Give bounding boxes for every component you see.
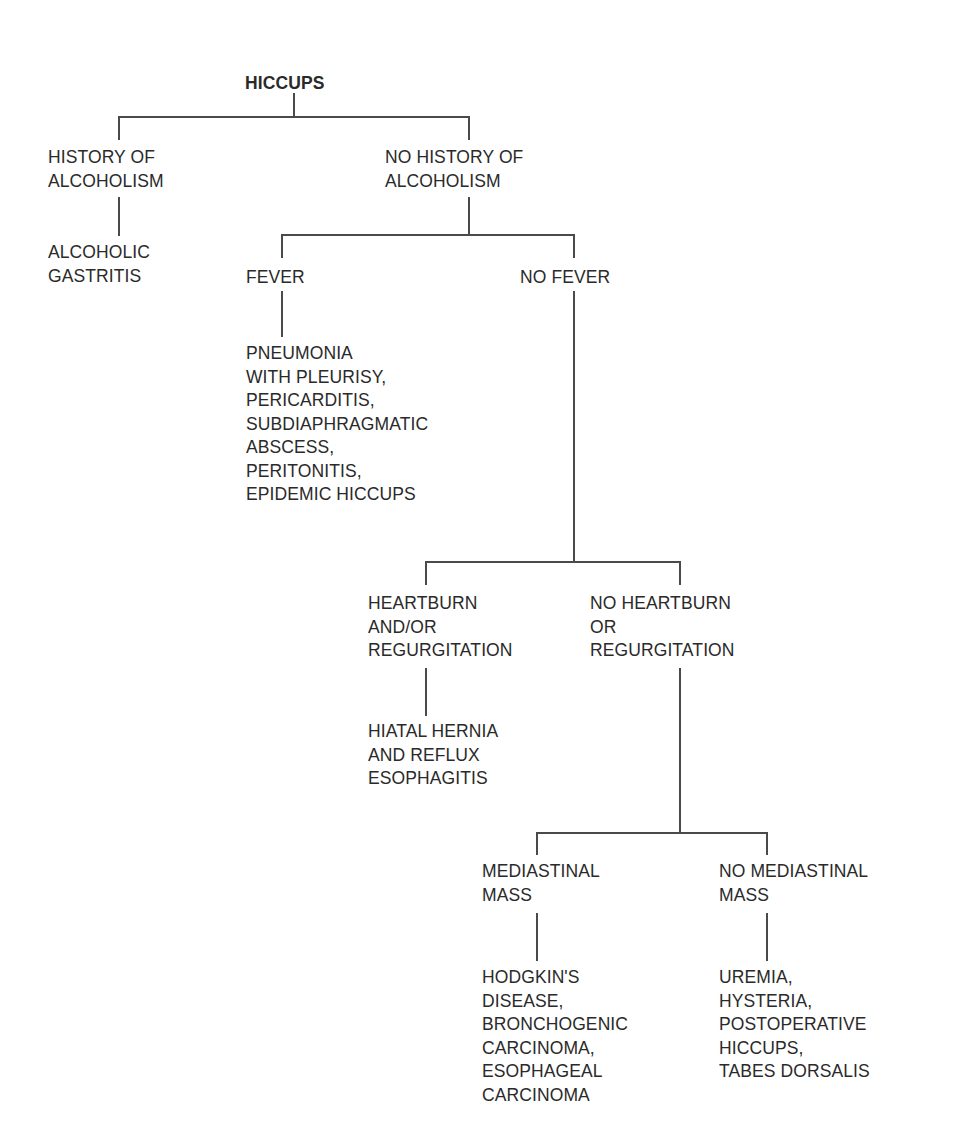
node-line: PNEUMONIA bbox=[246, 342, 428, 366]
node-line: ESOPHAGEAL bbox=[482, 1060, 628, 1084]
connector-heartburn-bar bbox=[425, 561, 680, 563]
node-line: REGURGITATION bbox=[590, 639, 735, 663]
node-mediastinal-mass: MEDIASTINAL MASS bbox=[482, 860, 600, 907]
connector-heartburn-to-hernia bbox=[425, 668, 427, 716]
node-line: TABES DORSALIS bbox=[719, 1060, 870, 1084]
node-no-mediastinal-mass: NO MEDIASTINAL MASS bbox=[719, 860, 868, 907]
connector-fever-bar bbox=[281, 234, 574, 236]
connector-to-fever bbox=[281, 234, 283, 258]
connector-no-history-stem bbox=[468, 197, 470, 234]
node-line: CARCINOMA, bbox=[482, 1037, 628, 1061]
node-line: SUBDIAPHRAGMATIC bbox=[246, 413, 428, 437]
connector-root-bar bbox=[118, 116, 469, 118]
connector-to-no-history bbox=[468, 116, 470, 140]
node-line: REGURGITATION bbox=[368, 639, 513, 663]
node-hiccups: HICCUPS bbox=[245, 72, 324, 96]
node-line: NO FEVER bbox=[520, 266, 610, 290]
node-line: DISEASE, bbox=[482, 990, 628, 1014]
connector-to-no-fever bbox=[573, 234, 575, 258]
node-line: ESOPHAGITIS bbox=[368, 767, 498, 791]
connector-to-history bbox=[118, 116, 120, 140]
node-line: CARCINOMA bbox=[482, 1084, 628, 1108]
node-mediastinal-causes: HODGKIN'S DISEASE, BRONCHOGENIC CARCINOM… bbox=[482, 966, 628, 1107]
node-alcoholic-gastritis: ALCOHOLIC GASTRITIS bbox=[48, 241, 150, 288]
node-line: WITH PLEURISY, bbox=[246, 366, 428, 390]
node-line: HICCUPS bbox=[245, 72, 324, 96]
node-line: ALCOHOLISM bbox=[385, 170, 523, 194]
node-line: PERICARDITIS, bbox=[246, 389, 428, 413]
node-heartburn: HEARTBURN AND/OR REGURGITATION bbox=[368, 592, 513, 663]
connector-fever-to-causes bbox=[281, 291, 283, 337]
node-fever: FEVER bbox=[246, 266, 305, 290]
node-line: HODGKIN'S bbox=[482, 966, 628, 990]
node-line: PERITONITIS, bbox=[246, 460, 428, 484]
node-line: ALCOHOLIC bbox=[48, 241, 150, 265]
connector-no-mediastinal-to-causes bbox=[766, 913, 768, 961]
node-line: HEARTBURN bbox=[368, 592, 513, 616]
node-line: ALCOHOLISM bbox=[48, 170, 164, 194]
node-line: EPIDEMIC HICCUPS bbox=[246, 483, 428, 507]
node-line: HYSTERIA, bbox=[719, 990, 870, 1014]
node-line: POSTOPERATIVE bbox=[719, 1013, 870, 1037]
connector-to-mediastinal bbox=[536, 832, 538, 855]
connector-history-to-gastritis bbox=[118, 197, 120, 236]
node-line: OR bbox=[590, 616, 735, 640]
node-line: BRONCHOGENIC bbox=[482, 1013, 628, 1037]
connector-no-fever-stem bbox=[573, 291, 575, 561]
node-line: NO HEARTBURN bbox=[590, 592, 735, 616]
node-line: HICCUPS, bbox=[719, 1037, 870, 1061]
node-hiatal-hernia: HIATAL HERNIA AND REFLUX ESOPHAGITIS bbox=[368, 720, 498, 791]
node-line: UREMIA, bbox=[719, 966, 870, 990]
node-line: FEVER bbox=[246, 266, 305, 290]
node-other-causes: UREMIA, HYSTERIA, POSTOPERATIVE HICCUPS,… bbox=[719, 966, 870, 1084]
connector-no-heartburn-stem bbox=[679, 668, 681, 832]
connector-to-heartburn bbox=[425, 561, 427, 585]
node-line: AND/OR bbox=[368, 616, 513, 640]
connector-mediastinal-to-causes bbox=[536, 913, 538, 961]
node-line: MASS bbox=[482, 884, 600, 908]
node-line: MASS bbox=[719, 884, 868, 908]
node-line: HISTORY OF bbox=[48, 146, 164, 170]
node-no-history-of-alcoholism: NO HISTORY OF ALCOHOLISM bbox=[385, 146, 523, 193]
node-no-fever: NO FEVER bbox=[520, 266, 610, 290]
node-line: HIATAL HERNIA bbox=[368, 720, 498, 744]
connector-to-no-heartburn bbox=[679, 561, 681, 585]
connector-to-no-mediastinal bbox=[766, 832, 768, 855]
connector-mediastinal-bar bbox=[536, 832, 767, 834]
connector-root-stem bbox=[293, 93, 295, 116]
node-history-of-alcoholism: HISTORY OF ALCOHOLISM bbox=[48, 146, 164, 193]
node-line: AND REFLUX bbox=[368, 744, 498, 768]
node-line: MEDIASTINAL bbox=[482, 860, 600, 884]
node-line: ABSCESS, bbox=[246, 436, 428, 460]
node-fever-causes: PNEUMONIA WITH PLEURISY, PERICARDITIS, S… bbox=[246, 342, 428, 507]
node-no-heartburn: NO HEARTBURN OR REGURGITATION bbox=[590, 592, 735, 663]
node-line: GASTRITIS bbox=[48, 265, 150, 289]
node-line: NO MEDIASTINAL bbox=[719, 860, 868, 884]
node-line: NO HISTORY OF bbox=[385, 146, 523, 170]
